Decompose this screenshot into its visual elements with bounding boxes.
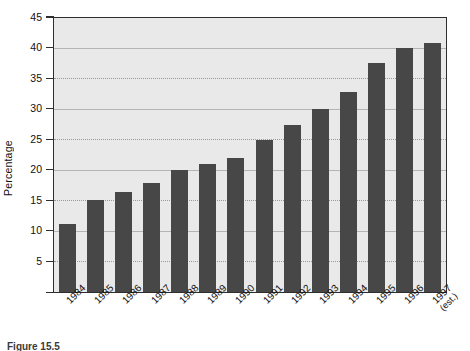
y-axis-tick bbox=[46, 230, 53, 231]
bar bbox=[115, 192, 132, 292]
bar bbox=[199, 164, 216, 292]
y-axis-tick bbox=[46, 16, 53, 17]
bar bbox=[87, 200, 104, 292]
y-axis-tick-label: 35 bbox=[20, 73, 42, 83]
y-axis-tick bbox=[46, 169, 53, 170]
bar bbox=[171, 170, 188, 292]
gridline bbox=[54, 109, 446, 110]
gridline bbox=[54, 261, 446, 262]
y-axis-tick bbox=[46, 78, 53, 79]
bar bbox=[312, 109, 329, 292]
bar bbox=[227, 158, 244, 292]
bar bbox=[368, 63, 385, 292]
figure-caption: Figure 15.5 bbox=[7, 341, 60, 351]
y-axis-tick-label: 40 bbox=[20, 42, 42, 52]
gridline bbox=[54, 48, 446, 49]
plot-area bbox=[53, 17, 447, 292]
y-axis-tick-label: 30 bbox=[20, 103, 42, 113]
y-axis-tick-label: 10 bbox=[20, 225, 42, 235]
bar bbox=[284, 125, 301, 292]
y-axis-tick-label: 20 bbox=[20, 164, 42, 174]
gridline bbox=[54, 170, 446, 171]
gridline bbox=[54, 78, 446, 79]
y-axis-tick bbox=[46, 47, 53, 48]
y-axis-tick bbox=[46, 200, 53, 201]
y-axis-line bbox=[53, 16, 54, 293]
gridline bbox=[54, 139, 446, 140]
y-axis-tick bbox=[46, 261, 53, 262]
y-axis-title: Percentage bbox=[0, 118, 16, 218]
y-axis-tick-label: 5 bbox=[20, 256, 42, 266]
figure-container: Percentage 51015202530354045 19841985198… bbox=[0, 0, 470, 351]
bar bbox=[424, 43, 441, 292]
y-axis-tick-label: 25 bbox=[20, 134, 42, 144]
gridline bbox=[54, 231, 446, 232]
bar bbox=[143, 183, 160, 292]
y-axis-tick bbox=[46, 139, 53, 140]
y-axis-tick-label: 45 bbox=[20, 12, 42, 22]
bar bbox=[396, 48, 413, 292]
gridline bbox=[54, 200, 446, 201]
y-axis-tick-label: 15 bbox=[20, 195, 42, 205]
bar bbox=[256, 140, 273, 292]
y-axis-tick bbox=[46, 108, 53, 109]
bar bbox=[59, 224, 76, 292]
bar bbox=[340, 92, 357, 292]
